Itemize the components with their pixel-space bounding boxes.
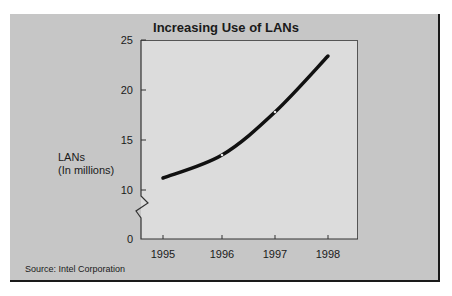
x-tick-label: 1998 bbox=[316, 248, 340, 260]
data-line bbox=[163, 56, 328, 178]
y-axis bbox=[136, 40, 358, 239]
y-ticks: 010152025 bbox=[121, 34, 146, 245]
x-tick-label: 1995 bbox=[151, 248, 175, 260]
y-tick-label: 15 bbox=[121, 134, 133, 146]
y-tick-label: 25 bbox=[121, 34, 133, 46]
x-tick-label: 1996 bbox=[210, 248, 234, 260]
source-note: Source: Intel Corporation bbox=[25, 264, 125, 274]
line-chart: 010152025 1995199619971998 bbox=[0, 0, 452, 296]
y-tick-label: 10 bbox=[121, 184, 133, 196]
y-tick-label: 0 bbox=[127, 233, 133, 245]
y-tick-label: 20 bbox=[121, 84, 133, 96]
x-tick-label: 1997 bbox=[263, 248, 287, 260]
